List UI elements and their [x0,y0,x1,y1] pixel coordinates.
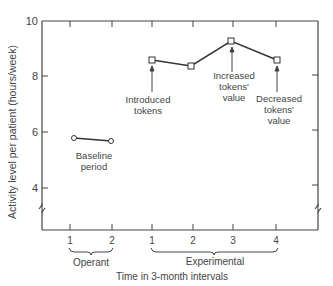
ytick-label-8: 8 [32,70,38,82]
x-ticks-bottom [70,224,276,230]
annotation-increased-line3: value [223,92,246,103]
brace-operant [69,248,113,255]
xtick-label-exp-1: 1 [149,235,155,246]
xtick-label-exp-4: 4 [273,235,279,246]
axis-break-left [39,205,45,212]
ytick-label-10: 10 [26,15,38,27]
ytick-label-6: 6 [32,126,38,138]
annotation-baseline-line2: period [81,161,107,172]
series-experimental [149,38,280,69]
annotation-decreased-line1: Decreased [256,93,302,104]
data-point-square [274,57,280,63]
data-point-square [149,57,155,63]
data-point-circle [109,139,114,144]
annotation-introduced-line2: tokens [134,105,162,116]
xtick-label-exp-2: 2 [190,235,196,246]
annotation-baseline-line1: Baseline [76,150,112,161]
annotation-introduced-line1: Introduced [126,94,171,105]
y-axis-label: Activity level per patient (hours/week) [6,45,18,219]
group-label-experimental: Experimental [186,256,244,267]
axis-break-right [315,205,321,212]
x-axis-label: Time in 3-month intervals [116,271,228,282]
data-point-square [188,63,194,69]
chart: 10 8 6 4 Activity level per patient (hou… [0,0,333,286]
series-baseline [72,136,114,144]
brace-experimental [151,248,278,255]
annotation-decreased-line3: value [268,115,291,126]
annotation-increased-line1: Increased [213,70,255,81]
ytick-label-4: 4 [32,182,38,194]
annotation-decreased-line2: tokens' [264,104,294,115]
annotation-increased-line2: tokens' [219,81,249,92]
data-point-circle [72,136,77,141]
data-point-square [228,38,234,44]
group-label-operant: Operant [73,257,109,268]
y-ticks-left [42,76,48,188]
xtick-label-exp-3: 3 [230,235,236,246]
x-ticks-top [70,21,276,27]
xtick-label-operant-1: 1 [67,235,73,246]
xtick-label-operant-2: 2 [109,235,115,246]
y-ticks-right [312,75,318,185]
